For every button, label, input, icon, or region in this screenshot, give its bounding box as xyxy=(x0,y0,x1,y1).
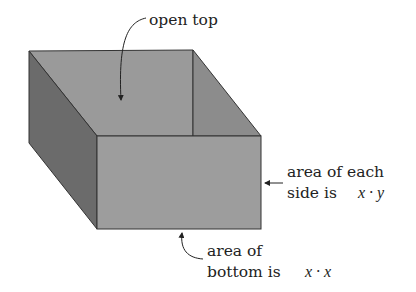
open-box-diagram: open top area of each side is x · y area… xyxy=(0,0,416,292)
side-area-formula: x · y xyxy=(357,184,385,202)
bottom-area-label-line2: bottom is xyxy=(207,263,281,281)
side-area-label-line2: side is xyxy=(287,184,337,202)
side-area-label-line1: area of each xyxy=(287,163,384,181)
bottom-area-formula: x · x xyxy=(304,263,331,280)
bottom-area-arrow xyxy=(182,233,203,259)
bottom-area-label-line1: area of xyxy=(207,242,263,260)
open-top-label: open top xyxy=(149,11,218,29)
box-interior-right xyxy=(193,50,261,136)
box-front-face xyxy=(97,136,261,229)
